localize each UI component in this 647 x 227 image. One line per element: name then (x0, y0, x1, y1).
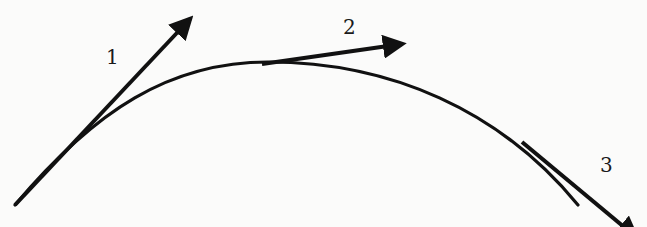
tangent-arrow-1 (15, 19, 190, 205)
tangent-label-2: 2 (343, 17, 356, 37)
tangent-label-1: 1 (106, 47, 119, 67)
tangent-arrow-2 (262, 44, 402, 64)
tangent-diagram: 1 2 3 (0, 0, 647, 227)
curve (15, 62, 578, 205)
tangent-arrow-3 (522, 142, 636, 227)
diagram-canvas (0, 0, 647, 227)
tangent-label-3: 3 (600, 155, 613, 175)
